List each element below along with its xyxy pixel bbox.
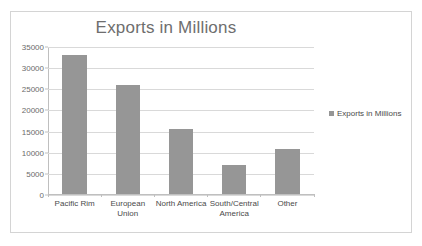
y-axis-tick-label: 10000	[22, 148, 44, 157]
bar-slot	[101, 47, 154, 194]
chart-title: Exports in Millions	[11, 18, 321, 38]
y-axis-tick-label: 20000	[22, 106, 44, 115]
bar-slot	[261, 47, 314, 194]
x-axis-tick-mark	[154, 194, 155, 197]
chart-legend[interactable]: Exports in Millions	[329, 109, 401, 118]
x-axis-category-label: Pacific Rim	[48, 199, 101, 219]
bars-group	[48, 47, 314, 194]
x-axis-labels: Pacific RimEuropean UnionNorth AmericaSo…	[48, 199, 314, 219]
bar-slot	[154, 47, 207, 194]
y-axis-tick-label: 5000	[26, 169, 44, 178]
bar[interactable]	[116, 85, 140, 194]
x-axis-tick-mark	[260, 194, 261, 197]
y-axis-tick-label: 15000	[22, 127, 44, 136]
gridline	[48, 195, 314, 196]
bar-slot	[48, 47, 101, 194]
y-axis-tick-label: 30000	[22, 64, 44, 73]
x-axis-tick-mark	[48, 194, 49, 197]
bar[interactable]	[275, 149, 299, 194]
legend-swatch-icon	[329, 111, 334, 116]
x-axis-tick-mark	[314, 194, 315, 197]
y-axis-tick-label: 35000	[22, 43, 44, 52]
plot-area: 35000300002500020000150001000050000	[48, 47, 314, 195]
x-axis-category-label: Other	[261, 199, 314, 219]
x-axis-category-label: North America	[154, 199, 207, 219]
bar-slot	[208, 47, 261, 194]
bar[interactable]	[169, 129, 193, 194]
y-axis-tick-label: 25000	[22, 85, 44, 94]
chart-container[interactable]: Exports in Millions 35000300002500020000…	[10, 11, 412, 233]
y-axis-tick-label: 0	[40, 191, 44, 200]
legend-item-label: Exports in Millions	[337, 109, 401, 118]
bar[interactable]	[62, 55, 86, 194]
x-axis-tick-mark	[207, 194, 208, 197]
bar[interactable]	[222, 165, 246, 194]
x-axis-tick-mark	[101, 194, 102, 197]
x-axis-category-label: South/Central America	[208, 199, 261, 219]
x-axis-category-label: European Union	[101, 199, 154, 219]
